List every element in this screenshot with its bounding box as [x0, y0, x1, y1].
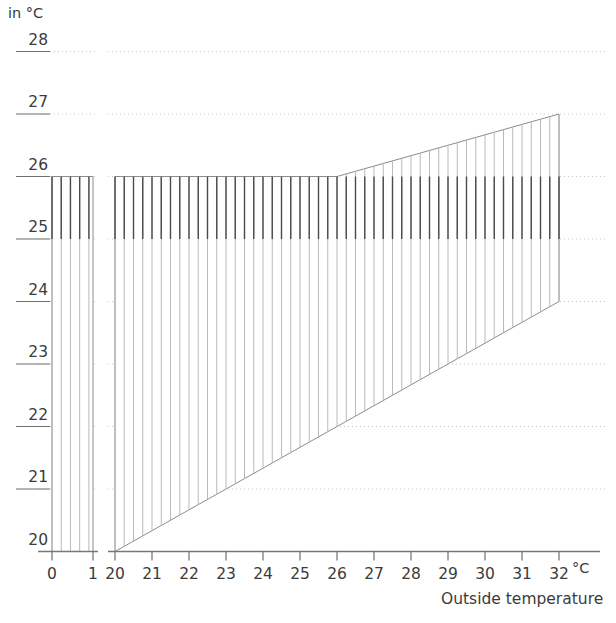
- chart-plot-area: [0, 0, 616, 623]
- y-axis-tick-label: 23: [14, 345, 48, 361]
- x-axis-tick-label: 20: [98, 567, 132, 583]
- y-axis-tick-label: 28: [14, 33, 48, 49]
- x-axis-tick-label: 32: [542, 567, 576, 583]
- y-axis-tick-label: 20: [14, 533, 48, 549]
- y-axis-tick-label: 26: [14, 158, 48, 174]
- y-axis-tick-label: 21: [14, 470, 48, 486]
- x-axis-tick-label: 23: [209, 567, 243, 583]
- x-axis-tick-label: 28: [394, 567, 428, 583]
- x-axis-tick-label: 29: [431, 567, 465, 583]
- x-axis-tick-label: 24: [246, 567, 280, 583]
- x-axis-tick-label: 27: [357, 567, 391, 583]
- y-axis-tick-label: 22: [14, 408, 48, 424]
- x-axis-title: Outside temperature: [441, 592, 603, 608]
- y-axis-tick-label: 27: [14, 95, 48, 111]
- y-axis-unit-label: in °C: [8, 6, 43, 21]
- data-bands: [52, 114, 559, 552]
- x-axis-tick-label: 22: [172, 567, 206, 583]
- x-axis-tick-label: 31: [505, 567, 539, 583]
- x-axis-tick-label: 26: [320, 567, 354, 583]
- x-axis-tick-label: 0: [35, 567, 69, 583]
- y-axis-tick-label: 24: [14, 283, 48, 299]
- chart-root: in °C °C Outside temperature 20212223242…: [0, 0, 616, 623]
- x-axis-tick-label: 30: [468, 567, 502, 583]
- x-axis-tick-label: 21: [135, 567, 169, 583]
- y-axis-tick-label: 25: [14, 220, 48, 236]
- x-axis-tick-label: 25: [283, 567, 317, 583]
